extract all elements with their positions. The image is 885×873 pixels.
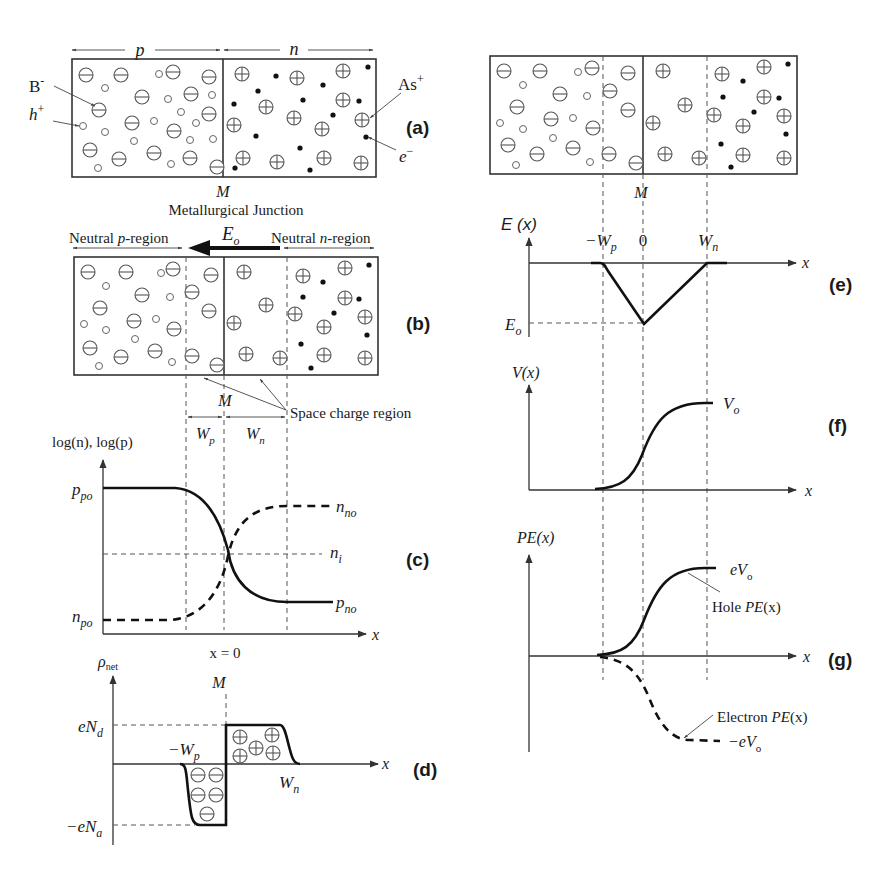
hole-pe-label: Hole PE(x) <box>712 599 781 616</box>
f-xaxis-label: x <box>804 482 812 499</box>
panel-b: Metallurgical Junction Neutral p-region … <box>69 202 430 630</box>
e-zero-label: 0 <box>639 231 648 250</box>
n-region-label: n <box>290 39 299 59</box>
c-ylabel: log(n), log(p) <box>52 434 133 451</box>
metallurgical-junction-label: Metallurgical Junction <box>168 202 304 218</box>
pn-junction-figure: p n <box>0 0 885 873</box>
electron-pe-curve <box>600 657 720 741</box>
hole-label: h+ <box>29 102 45 124</box>
junction-m-label: M <box>215 183 231 200</box>
donor-ions <box>227 261 372 365</box>
evo-label: eVo <box>730 561 753 582</box>
panel-d: ρnet x M eNd −eNa −Wp Wn (d) <box>66 653 437 845</box>
c-xaxis-label: x <box>371 626 379 643</box>
space-charge-region-label: Space charge region <box>290 405 412 421</box>
potential-curve <box>595 403 713 489</box>
panel-label-b: (b) <box>406 313 430 334</box>
nno-label: nno <box>336 497 357 520</box>
panel-label-a: (a) <box>406 117 429 138</box>
wn-label: Wn <box>246 425 265 446</box>
panel-g: PE(x) x eVo Hole PE(x) Electron PE(x) −e… <box>516 529 852 754</box>
e-minus-wp-label: −Wp <box>585 231 617 254</box>
wn-label-d: Wn <box>279 773 299 796</box>
boron-ion-label: B- <box>29 74 44 96</box>
junction-m-label-right: M <box>633 184 649 201</box>
field-eo-label: Eo <box>221 223 240 248</box>
minus-wp-label: −Wp <box>168 740 200 763</box>
acceptor-ions <box>81 262 224 372</box>
npo-label: npo <box>72 607 93 630</box>
panel-e: E (x) x −Wp 0 Wn Eo (e) <box>501 215 852 338</box>
e-wn-label: Wn <box>698 231 718 254</box>
panel-label-g: (g) <box>828 649 852 670</box>
panel-f: V(x) x Vo (f) <box>512 364 847 499</box>
p-region-label: p <box>134 40 145 60</box>
pno-label: pno <box>335 593 357 616</box>
electron-pe-label: Electron PE(x) <box>717 709 807 726</box>
minus-evo-label: −eVo <box>728 733 762 754</box>
v-ylabel: V(x) <box>512 364 540 382</box>
vo-label: Vo <box>723 394 739 417</box>
eo-label: Eo <box>504 315 521 338</box>
panel-label-e: (e) <box>829 274 852 295</box>
pe-ylabel: PE(x) <box>516 529 554 547</box>
arsenic-ion-label: As+ <box>398 72 424 94</box>
neutral-n-region-label: Neutral n-region <box>271 230 371 246</box>
panel-label-c: (c) <box>406 549 429 570</box>
ena-label: −eNa <box>66 817 102 840</box>
panel-label-f: (f) <box>828 415 847 436</box>
rho-net-label: ρnet <box>97 653 118 672</box>
ni-label: ni <box>330 543 342 566</box>
panel-label-d: (d) <box>413 759 437 780</box>
end-label: eNd <box>78 717 104 740</box>
neutral-p-region-label: Neutral p-region <box>69 230 169 246</box>
ppo-label: ppo <box>71 480 93 503</box>
x-equals-zero-label: x = 0 <box>210 645 241 661</box>
donor-ions <box>227 64 369 170</box>
wp-label: Wp <box>196 425 215 446</box>
e-xaxis-label: x <box>801 254 809 271</box>
junction-m-label-b: M <box>217 392 233 409</box>
panel-a: p n <box>29 39 429 200</box>
d-junction-m-label: M <box>211 674 227 691</box>
panel-c: log(n), log(p) x x = 0 ppo nno ni pno np… <box>52 434 429 661</box>
d-xaxis-label: x <box>381 755 389 772</box>
hole-pe-curve <box>597 568 716 655</box>
e-ylabel: E (x) <box>501 215 537 234</box>
electron-label: e− <box>399 144 414 166</box>
g-xaxis-label: x <box>802 648 810 665</box>
